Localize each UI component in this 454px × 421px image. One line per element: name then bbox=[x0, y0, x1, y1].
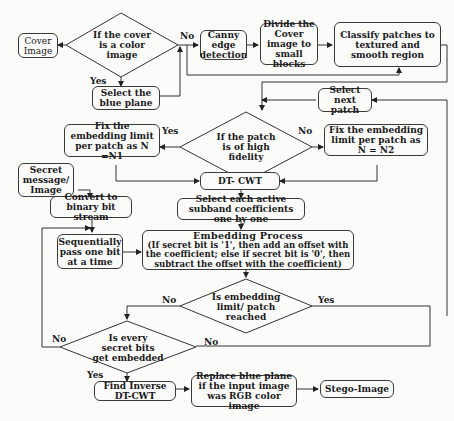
decision-all-embedded: Is every secret bits get embedded bbox=[92, 332, 164, 364]
label-fidelity-no: No bbox=[298, 126, 312, 136]
label-all-yes: Yes bbox=[87, 370, 103, 380]
node-select-blue: Select the blue plane bbox=[92, 86, 160, 110]
node-classify: Classify patches to textured and smooth … bbox=[334, 22, 441, 67]
label-all-no-left: No bbox=[52, 334, 66, 344]
node-sequential: Sequentially pass one bit at a time bbox=[57, 234, 123, 269]
label-all-no-right: No bbox=[204, 337, 218, 347]
node-dtcwt: DT- CWT bbox=[200, 172, 280, 190]
node-select-subband: Select each active subband coefficients … bbox=[177, 198, 305, 220]
label-limit-yes: Yes bbox=[318, 295, 334, 305]
node-embedding-process: Embedding Process (If secret bit is '1',… bbox=[142, 230, 354, 270]
node-stego: Stego-Image bbox=[320, 380, 394, 398]
node-cover-image: Cover Image bbox=[18, 33, 58, 58]
flowchart: Cover Image If the cover is a color imag… bbox=[0, 0, 454, 421]
label-limit-no: No bbox=[162, 295, 176, 305]
embedding-body: (If secret bit is '1', then add an offse… bbox=[145, 241, 351, 270]
node-select-next: Select next patch bbox=[318, 88, 372, 112]
label-fidelity-yes: Yes bbox=[162, 126, 178, 136]
node-fix-n1: Fix the embedding limit per patch as N =… bbox=[64, 124, 160, 157]
node-fix-n2: Fix the embedding limit per patch as N =… bbox=[324, 124, 428, 156]
label-color-yes: Yes bbox=[90, 76, 106, 86]
node-inverse-dtcwt: Find Inverse DT-CWT bbox=[94, 381, 176, 401]
node-convert: Convert to binary bit stream bbox=[50, 196, 132, 218]
node-divide: Divide the Cover image to small blocks bbox=[260, 23, 318, 65]
decision-high-fidelity: If the patch is of high fidelity bbox=[212, 127, 280, 167]
node-canny: Canny edge detection bbox=[200, 30, 247, 60]
label-color-no: No bbox=[180, 31, 194, 41]
decision-is-color: If the cover is a color image bbox=[88, 30, 156, 60]
decision-limit-reached: Is embedding limit/ patch reached bbox=[210, 290, 282, 324]
node-replace-blue: Replace blue plane if the input image wa… bbox=[191, 375, 297, 407]
